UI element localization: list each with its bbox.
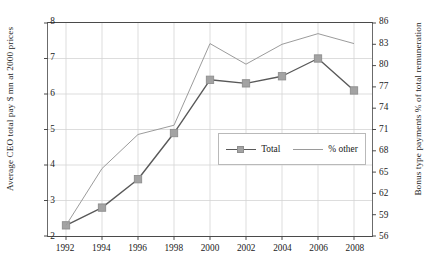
y-axis-right-tick: 59 [379,210,419,220]
legend-swatch-total-icon [226,144,256,154]
y-axis-left-tick: 5 [15,124,55,134]
legend-entry-total[interactable]: Total [226,144,280,154]
x-axis-tick: 2008 [332,243,378,253]
legend-label-total: Total [261,144,280,154]
y-axis-left-tick: 4 [15,159,55,169]
y-axis-right-tick: 86 [379,16,419,26]
legend-entry-other[interactable]: % other [293,144,357,154]
y-axis-right-tick: 74 [379,102,419,112]
y-axis-right-tick: 77 [379,81,419,91]
chart-figure: Average CEO total pay $ mn at 2000 price… [0,0,433,277]
y-axis-right-tick: 68 [379,145,419,155]
y-axis-left-title: Average CEO total pay $ mn at 2000 price… [5,2,15,217]
y-axis-right-tick: 65 [379,167,419,177]
y-axis-left-tick: 3 [15,195,55,205]
y-axis-left-tick: 6 [15,88,55,98]
legend[interactable]: Total % other [218,133,366,165]
y-axis-right-tick: 80 [379,59,419,69]
y-axis-left-tick: 7 [15,52,55,62]
y-axis-right-tick: 62 [379,188,419,198]
data-series-layer [48,23,372,236]
y-axis-left-tick: 2 [15,231,55,241]
y-axis-left-tick: 8 [15,16,55,26]
legend-swatch-other-icon [293,144,323,154]
y-axis-right-tick: 71 [379,124,419,134]
y-axis-right-tick: 83 [379,38,419,48]
y-axis-right-tick: 56 [379,231,419,241]
plot-area [47,22,373,237]
legend-label-other: % other [328,144,357,154]
